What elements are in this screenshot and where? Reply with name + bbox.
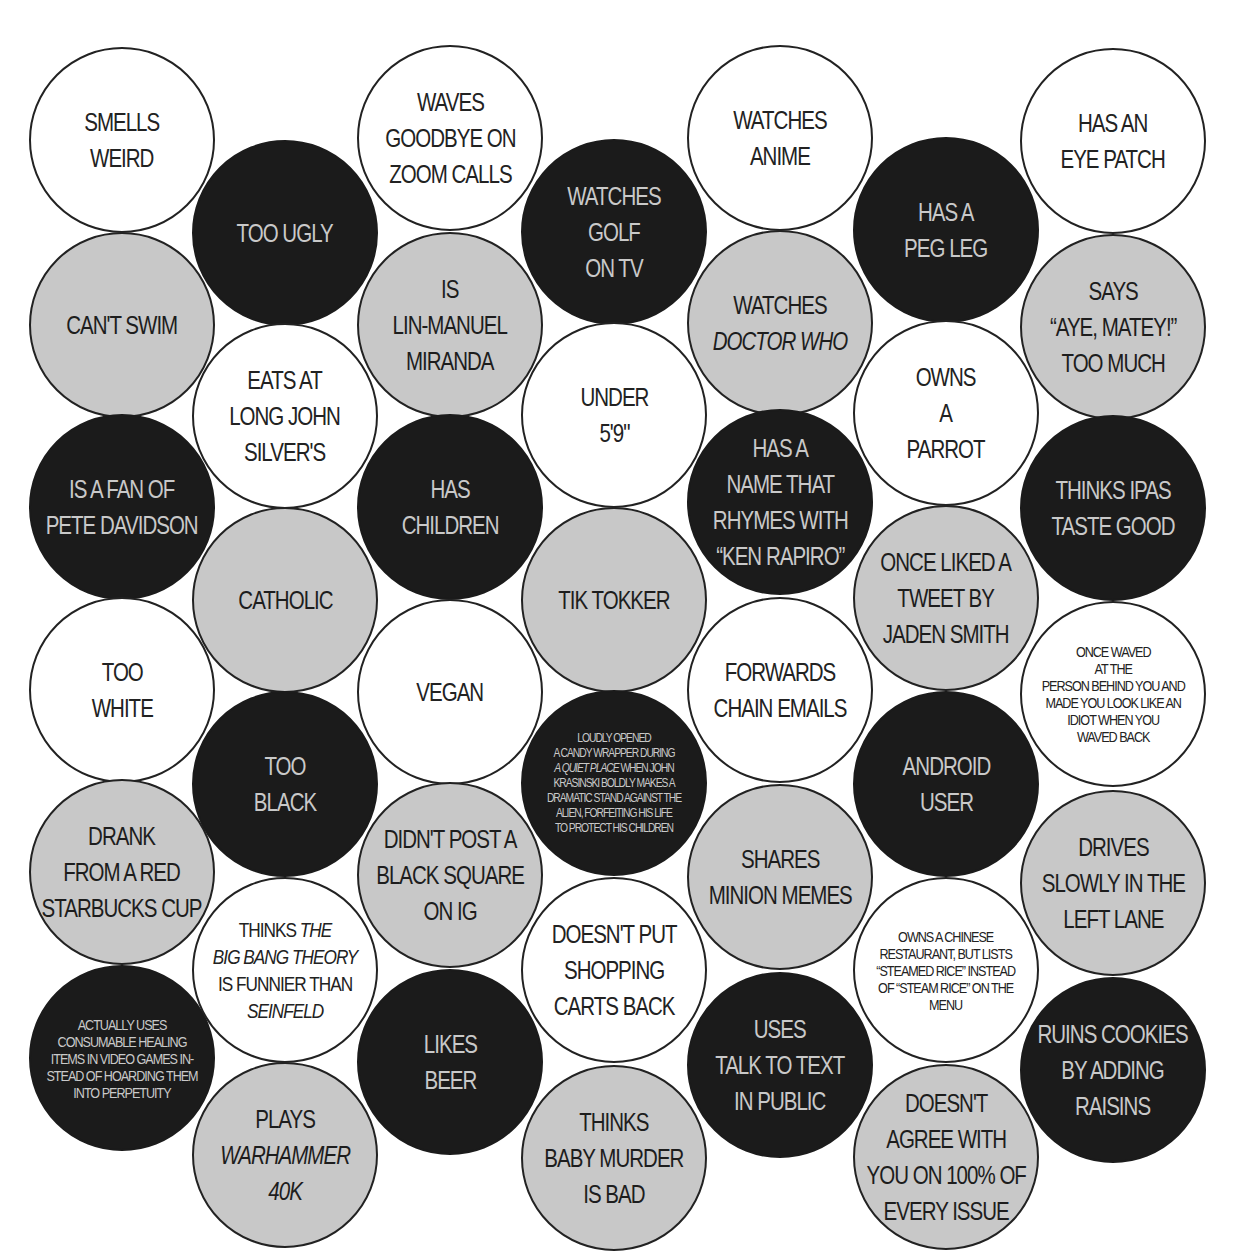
circle-label: LOUDLY OPENEDA CANDY WRAPPER DURINGA QUI… (528, 731, 700, 836)
circle-label-line: GOLF (567, 214, 660, 250)
circle-label-line: “KEN RAPIRO” (713, 538, 848, 574)
circle-label-line: DRAMATIC STAND AGAINST THE (547, 791, 681, 806)
circle-label-line: ZOOM CALLS (385, 156, 515, 192)
circle-label-line: IS A FAN OF (46, 471, 198, 507)
circle-label-line: WATCHES (733, 102, 826, 138)
circle-label: ONCE WAVEDAT THEPERSON BEHIND YOU ANDMAD… (1020, 643, 1206, 745)
circle-label-line: SHOPPING (552, 952, 677, 988)
circle-label-line: STARBUCKS CUP (42, 890, 202, 926)
bingo-circle: OWNSAPARROT (853, 320, 1039, 506)
bingo-circle: FORWARDSCHAIN EMAILS (687, 597, 873, 783)
circle-label-line: RUINS COOKIES (1038, 1016, 1188, 1052)
circle-label-line: OWNS (907, 359, 985, 395)
circle-label-line: OWNS A CHINESE (877, 928, 1016, 945)
circle-label-line: BIG BANG THEORY (213, 943, 357, 970)
circle-label: ACTUALLY USESCONSUMABLE HEALINGITEMS IN … (29, 1016, 215, 1101)
circle-label-line: BABY MURDER (544, 1140, 683, 1176)
circle-label-line: TIK TOKKER (558, 582, 669, 618)
bingo-circle: CATHOLIC (192, 507, 378, 693)
circle-label-line: GOODBYE ON (385, 120, 515, 156)
bingo-circle: LOUDLY OPENEDA CANDY WRAPPER DURINGA QUI… (521, 690, 707, 876)
circle-label-line: ON TV (567, 250, 660, 286)
circle-label-line: ITEMS IN VIDEO GAMES IN- (46, 1050, 197, 1067)
circle-label-line: PEG LEG (904, 230, 987, 266)
circle-label-line: HAS AN (1061, 105, 1165, 141)
circle-label-line: DOCTOR WHO (713, 323, 847, 359)
circle-label: WATCHESANIME (715, 102, 845, 174)
circle-label-line: USER (902, 784, 990, 820)
circle-label-line: BLACK SQUARE (376, 857, 524, 893)
circle-label-line: “STEAMED RICE” INSTEAD (877, 962, 1016, 979)
circle-label: CAN'T SWIM (46, 307, 197, 343)
bingo-circle: CAN'T SWIM (29, 232, 215, 418)
circle-label-line: EVERY ISSUE (866, 1193, 1025, 1229)
circle-label-line: TOO (254, 748, 316, 784)
circle-label: DRANKFROM A REDSTARBUCKS CUP (29, 818, 215, 926)
circle-label-line: AT THE (1041, 660, 1184, 677)
bingo-circle: EATS ATLONG JOHNSILVER'S (192, 323, 378, 509)
circle-label-line: TWEET BY (881, 580, 1012, 616)
circle-label: DOESN'T PUTSHOPPINGCARTS BACK (530, 916, 698, 1024)
circle-label-line: BLACK (254, 784, 316, 820)
bingo-circle: DOESN'TAGREE WITHYOU ON 100% OFEVERY ISS… (853, 1064, 1039, 1250)
bingo-circle: TOOBLACK (192, 691, 378, 877)
circle-label-line: PERSON BEHIND YOU AND (1041, 677, 1184, 694)
circle-label: TIK TOKKER (538, 582, 690, 618)
circle-label-line: A QUIET PLACE WHEN JOHN (547, 761, 681, 776)
circle-label: OWNS A CHINESERESTAURANT, BUT LISTS“STEA… (855, 928, 1036, 1013)
circle-label: WATCHESGOLFON TV (549, 178, 679, 286)
circle-label: HAS ANAME THATRHYMES WITH“KEN RAPIRO” (690, 430, 871, 574)
circle-label-line: MENU (877, 996, 1016, 1013)
circle-label-line: TOO (91, 654, 152, 690)
circle-label: WAVESGOODBYE ONZOOM CALLS (363, 84, 538, 192)
circle-label-line: IS (393, 271, 507, 307)
circle-label: UNDER5'9" (565, 379, 664, 451)
circle-label-line: DOESN'T (866, 1085, 1025, 1121)
circle-label-line: IDIOT WHEN YOU (1041, 711, 1184, 728)
circle-label-line: JADEN SMITH (881, 616, 1012, 652)
circle-label: ISLIN-MANUELMIRANDA (372, 271, 527, 379)
circle-label-line: CHAIN EMAILS (714, 690, 847, 726)
bingo-circle: ONCE LIKED ATWEET BYJADEN SMITH (853, 505, 1039, 691)
bingo-circle: SAYS“AYE, MATEY!”TOO MUCH (1020, 234, 1206, 420)
circle-label: IS A FAN OFPETE DAVIDSON (29, 471, 215, 543)
circle-label-line: DRANK (42, 818, 202, 854)
circle-label: SMELLSWEIRD (68, 104, 175, 176)
bingo-circle: TOOWHITE (29, 597, 215, 783)
circle-label-line: CAN'T SWIM (66, 307, 177, 343)
circle-label-line: PLAYS (220, 1101, 350, 1137)
bingo-circle: THINKS THEBIG BANG THEORYIS FUNNIER THAN… (192, 877, 378, 1063)
bingo-circle: DOESN'T PUTSHOPPINGCARTS BACK (521, 877, 707, 1063)
bingo-circle: HAS ANEYE PATCH (1020, 48, 1206, 234)
circle-label-line: NAME THAT (713, 466, 848, 502)
circle-label-line: SEINFELD (213, 997, 357, 1024)
circle-label: THINKS THEBIG BANG THEORYIS FUNNIER THAN… (192, 916, 378, 1024)
circle-label-line: LEFT LANE (1041, 901, 1184, 937)
circle-label-line: THINKS THE (213, 916, 357, 943)
circle-label: TOOWHITE (77, 654, 168, 726)
bingo-circle: SMELLSWEIRD (29, 47, 215, 233)
circle-label-line: “AYE, MATEY!” (1050, 309, 1177, 345)
bingo-circle: RUINS COOKIESBY ADDINGRAISINS (1020, 977, 1206, 1163)
circle-label-line: FORWARDS (714, 654, 847, 690)
circle-label-line: WATCHES (567, 178, 660, 214)
circle-label: DOESN'TAGREE WITHYOU ON 100% OFEVERY ISS… (853, 1085, 1039, 1229)
circle-label-line: A (907, 395, 985, 431)
circle-label-line: TO PROTECT HIS CHILDREN (547, 821, 681, 836)
circle-label-line: UNDER (580, 379, 648, 415)
bingo-circle: ONCE WAVEDAT THEPERSON BEHIND YOU ANDMAD… (1020, 601, 1206, 787)
bingo-circle: HAS APEG LEG (853, 137, 1039, 323)
bingo-circle: SHARESMINION MEMES (687, 784, 873, 970)
circle-label: HAS APEG LEG (887, 194, 1004, 266)
circle-label: TOOBLACK (239, 748, 331, 820)
circle-label: LIKESBEER (410, 1026, 491, 1098)
bingo-circle: DRANKFROM A REDSTARBUCKS CUP (29, 779, 215, 965)
circle-label-line: BY ADDING (1038, 1052, 1188, 1088)
circle-label-line: FROM A RED (42, 854, 202, 890)
circle-label-line: WHITE (91, 690, 152, 726)
bingo-circle: DRIVESSLOWLY IN THELEFT LANE (1020, 790, 1206, 976)
circle-label-line: TOO MUCH (1050, 345, 1177, 381)
bingo-circle: USESTALK TO TEXTIN PUBLIC (687, 972, 873, 1158)
circle-label-line: DOESN'T PUT (552, 916, 677, 952)
circle-label-line: HAS A (904, 194, 987, 230)
